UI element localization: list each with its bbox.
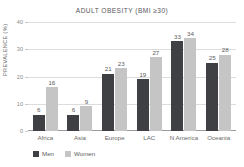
y-axis-tick-label: 40 (17, 19, 23, 25)
bar-group-bars: 616 (28, 22, 63, 131)
x-axis-category-label: Europe (105, 134, 125, 141)
bar-value-label: 19 (139, 71, 146, 78)
chart-title: ADULT OBESITY (BMI ≥30) (0, 7, 244, 14)
bar-group: 2528Oceania (201, 22, 236, 131)
bar-group-bars: 2528 (201, 22, 236, 131)
x-axis-category-label: Oceania (207, 134, 230, 141)
bar-women-asia: 9 (80, 106, 92, 131)
bar-value-label: 9 (85, 98, 88, 105)
bar-women-n-america: 34 (184, 38, 196, 131)
legend-label: Women (74, 150, 95, 157)
x-axis-category-label: Africa (37, 134, 53, 141)
legend-swatch-icon (33, 151, 39, 157)
bar-men-lac: 19 (137, 79, 149, 131)
bar-women-oceania: 28 (219, 55, 231, 131)
bar-group-bars: 2123 (97, 22, 132, 131)
bar-women-lac: 27 (150, 57, 162, 131)
chart-legend: MenWomen (33, 150, 95, 157)
bar-women-africa: 16 (46, 87, 58, 131)
y-axis-title: PREVALENCE (%) (2, 24, 8, 76)
bar-men-europe: 21 (102, 74, 114, 131)
plot-area: 010203040616Africa69Asia2123Europe1927LA… (28, 22, 236, 131)
bar-value-label: 33 (174, 33, 181, 40)
x-axis-category-label: N America (170, 134, 199, 141)
bar-men-n-america: 33 (171, 41, 183, 131)
bar-value-label: 6 (37, 106, 40, 113)
bar-group: 1927LAC (132, 22, 167, 131)
y-axis-tick-label: 10 (17, 101, 23, 107)
legend-item-men[interactable]: Men (33, 150, 54, 157)
bar-value-label: 27 (152, 49, 159, 56)
bar-value-label: 23 (118, 60, 125, 67)
legend-swatch-icon (65, 151, 71, 157)
bar-group: 3334N America (167, 22, 202, 131)
bar-value-label: 16 (48, 79, 55, 86)
bar-value-label: 34 (187, 30, 194, 37)
bar-value-label: 21 (105, 65, 112, 72)
bar-group-bars: 69 (63, 22, 98, 131)
bar-men-asia: 6 (67, 115, 79, 131)
bar-value-label: 25 (209, 54, 216, 61)
y-axis-tick-label: 20 (17, 74, 23, 80)
bar-value-label: 28 (222, 46, 229, 53)
bar-men-oceania: 25 (206, 63, 218, 131)
bar-men-africa: 6 (33, 115, 45, 131)
legend-item-women[interactable]: Women (65, 150, 95, 157)
bar-value-label: 6 (72, 106, 75, 113)
bar-group-bars: 1927 (132, 22, 167, 131)
legend-label: Men (42, 150, 54, 157)
bar-chart: ADULT OBESITY (BMI ≥30) PREVALENCE (%) 0… (0, 0, 244, 167)
bar-women-europe: 23 (115, 68, 127, 131)
y-axis-tick-mark (25, 131, 28, 132)
bar-group: 2123Europe (97, 22, 132, 131)
x-axis-category-label: LAC (143, 134, 155, 141)
bar-group: 616Africa (28, 22, 63, 131)
y-axis-tick-label: 30 (17, 46, 23, 52)
x-axis-category-label: Asia (74, 134, 86, 141)
bar-group-bars: 3334 (167, 22, 202, 131)
bar-group: 69Asia (63, 22, 98, 131)
y-axis-tick-label: 0 (20, 128, 23, 134)
